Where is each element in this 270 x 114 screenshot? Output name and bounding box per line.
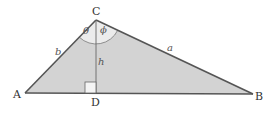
vertex-label-d: D <box>91 96 100 109</box>
vertex-label-b: B <box>255 90 263 103</box>
side-c-base <box>25 93 253 94</box>
side-label-a: a <box>167 42 173 53</box>
triangle-diagram: C A B D b a h θ ϕ <box>0 0 270 114</box>
side-label-b: b <box>55 46 61 57</box>
angle-label-theta: θ <box>83 25 89 36</box>
angle-label-phi: ϕ <box>100 24 107 35</box>
right-angle-marker <box>85 82 96 93</box>
vertex-label-a: A <box>12 88 22 101</box>
altitude-label-h: h <box>98 56 104 67</box>
vertex-label-c: C <box>92 5 100 18</box>
